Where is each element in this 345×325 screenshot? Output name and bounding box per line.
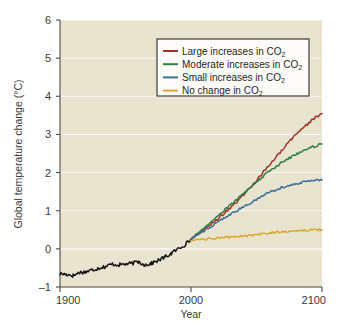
chart-canvas: –10123456 190020002100 Global temperatur… bbox=[0, 0, 345, 325]
legend-label-subscript: 2 bbox=[259, 90, 263, 97]
y-axis-title-close: ) bbox=[12, 80, 24, 84]
y-axis-tick-label: 1 bbox=[45, 205, 51, 217]
legend-label-text: Moderate increases in CO bbox=[182, 59, 298, 70]
y-axis-tick-label: 6 bbox=[45, 14, 51, 26]
y-axis-title-unit: °C bbox=[12, 83, 24, 95]
x-axis-title: Year bbox=[180, 308, 202, 320]
y-axis-tick-label: 0 bbox=[45, 243, 51, 255]
legend-item-label[interactable]: No change in CO2 bbox=[182, 85, 263, 97]
legend-label-subscript: 2 bbox=[281, 77, 285, 84]
legend-item-label[interactable]: Large increases in CO2 bbox=[182, 46, 286, 58]
legend-label-text: Small increases in CO bbox=[182, 72, 281, 83]
legend-label-subscript: 2 bbox=[282, 51, 286, 58]
x-axis-tick-label: 2100 bbox=[302, 294, 326, 306]
legend-item-label[interactable]: Small increases in CO2 bbox=[182, 72, 285, 84]
y-axis-tick-label: 3 bbox=[45, 128, 51, 140]
x-axis-tick-label: 2000 bbox=[179, 294, 203, 306]
y-axis-tick-label: 2 bbox=[45, 167, 51, 179]
legend-label-text: No change in CO bbox=[182, 85, 259, 96]
chart-legend[interactable]: Large increases in CO2Moderate increases… bbox=[157, 39, 309, 97]
legend-label-subscript: 2 bbox=[298, 64, 302, 71]
chart-figure: –10123456 190020002100 Global temperatur… bbox=[0, 0, 345, 325]
y-axis-tick-label: 5 bbox=[45, 52, 51, 64]
y-axis-title-main: Global temperature change ( bbox=[12, 94, 24, 228]
y-axis-title: Global temperature change (°C) bbox=[12, 80, 24, 229]
x-axis-tick-label: 1900 bbox=[56, 294, 80, 306]
legend-label-text: Large increases in CO bbox=[182, 46, 282, 57]
legend-item-label[interactable]: Moderate increases in CO2 bbox=[182, 59, 302, 71]
y-axis-tick-label: 4 bbox=[45, 90, 51, 102]
y-axis-tick-label: –1 bbox=[39, 281, 51, 293]
